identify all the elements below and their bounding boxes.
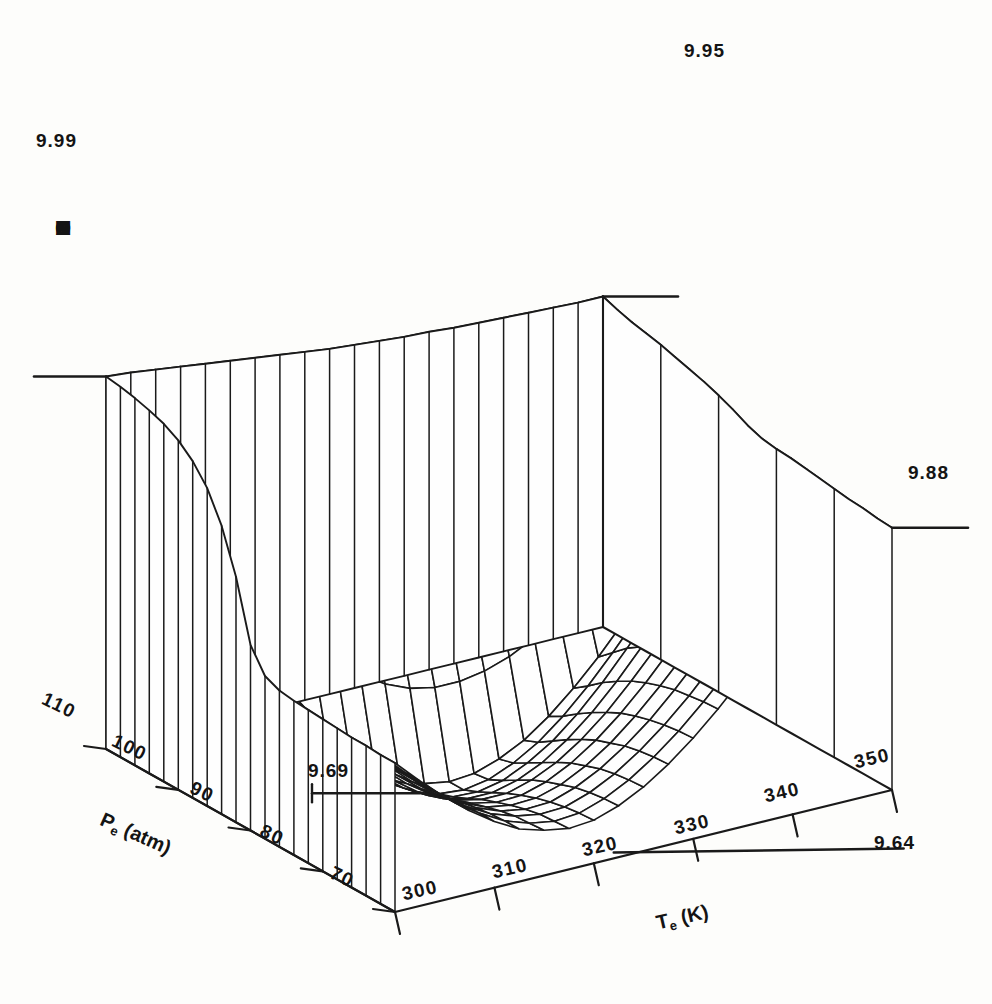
y-axis-tick <box>892 790 897 812</box>
value-label-top-right: 9.95 <box>684 40 725 62</box>
x-axis-tick <box>84 746 106 749</box>
y-axis-tick <box>494 888 499 910</box>
z-axis-letter: E <box>48 208 78 248</box>
value-label-interior: 9.69 <box>308 760 349 782</box>
y-axis-tick <box>793 814 798 836</box>
y-axis-tick <box>693 839 698 861</box>
y-axis-tick <box>395 912 400 934</box>
value-label-right: 9.88 <box>908 462 949 484</box>
value-label-bottom: 9.64 <box>874 832 915 854</box>
value-label-top-left: 9.99 <box>36 130 77 152</box>
surface-plot-figure: 9.99 9.95 9.88 9.64 9.69 MOLESACETONE Pe… <box>0 0 992 1004</box>
y-axis-tick <box>594 863 599 885</box>
leader-line-9-64 <box>614 849 904 853</box>
